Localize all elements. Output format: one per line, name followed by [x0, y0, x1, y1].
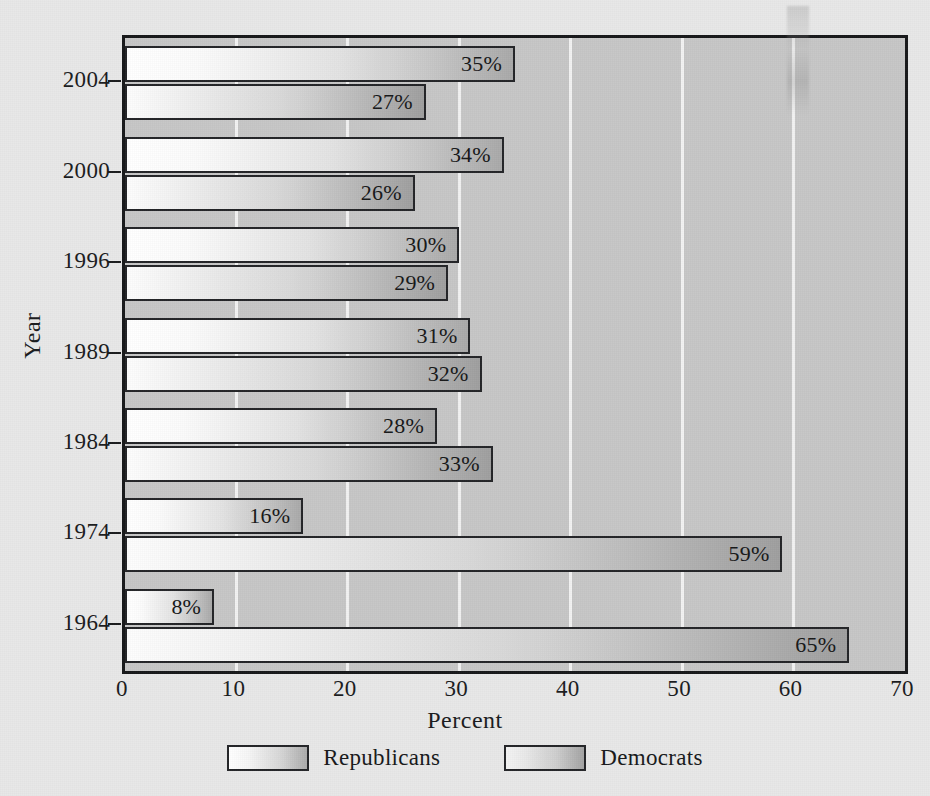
bars-layer: 35%27%34%26%30%29%31%32%28%33%16%59%8%65… [125, 38, 905, 671]
bar-republicans-1974: 16% [125, 498, 303, 534]
legend-item-democrats: Democrats [504, 745, 702, 771]
plot-area: 35%27%34%26%30%29%31%32%28%33%16%59%8%65… [122, 35, 908, 674]
x-tick-label-70: 70 [872, 676, 930, 702]
legend-swatch-democrats [504, 745, 586, 771]
bar-republicans-1989: 31% [125, 318, 470, 354]
bar-value-label: 35% [461, 51, 513, 77]
x-tick-label-60: 60 [761, 676, 821, 702]
y-axis-tick-labels: 2004200019961989198419741964 [0, 35, 110, 668]
y-tick-label-1974: 1974 [18, 519, 110, 545]
bar-democrats-2000: 26% [125, 175, 415, 211]
legend-item-republicans: Republicans [227, 745, 440, 771]
y-tick-label-1964: 1964 [18, 610, 110, 636]
x-tick-label-20: 20 [315, 676, 375, 702]
legend-label-democrats: Democrats [600, 745, 702, 771]
bar-value-label: 26% [361, 180, 413, 206]
x-tick-label-0: 0 [92, 676, 152, 702]
legend-swatch-republicans [227, 745, 309, 771]
x-axis-title: Percent [0, 707, 930, 734]
bar-value-label: 59% [728, 541, 780, 567]
bar-value-label: 28% [383, 413, 435, 439]
legend-label-republicans: Republicans [323, 745, 440, 771]
x-tick-label-40: 40 [538, 676, 598, 702]
y-tick-label-1984: 1984 [18, 429, 110, 455]
bar-value-label: 27% [372, 89, 424, 115]
bar-democrats-1984: 33% [125, 446, 493, 482]
bar-value-label: 33% [439, 451, 491, 477]
bar-value-label: 34% [450, 142, 502, 168]
x-axis-tick-labels: 010203040506070 [122, 676, 902, 710]
bar-chart-figure: Year 2004200019961989198419741964 35%27%… [0, 0, 930, 796]
bar-value-label: 30% [405, 232, 457, 258]
bar-value-label: 16% [249, 503, 301, 529]
bar-value-label: 32% [428, 361, 480, 387]
x-tick-label-10: 10 [203, 676, 263, 702]
y-tick-label-2000: 2000 [18, 158, 110, 184]
bar-republicans-1964: 8% [125, 589, 214, 625]
bar-republicans-2004: 35% [125, 46, 515, 82]
bar-value-label: 8% [171, 594, 212, 620]
bar-democrats-2004: 27% [125, 84, 426, 120]
bar-value-label: 29% [394, 270, 446, 296]
bar-republicans-1984: 28% [125, 408, 437, 444]
bar-democrats-1996: 29% [125, 265, 448, 301]
bar-democrats-1989: 32% [125, 356, 482, 392]
x-tick-label-50: 50 [649, 676, 709, 702]
y-tick-label-2004: 2004 [18, 67, 110, 93]
bar-democrats-1964: 65% [125, 627, 849, 663]
y-tick-label-1989: 1989 [18, 339, 110, 365]
bar-democrats-1974: 59% [125, 536, 782, 572]
bar-value-label: 65% [795, 632, 847, 658]
x-tick-label-30: 30 [426, 676, 486, 702]
bar-republicans-2000: 34% [125, 137, 504, 173]
y-tick-label-1996: 1996 [18, 248, 110, 274]
chart-legend: RepublicansDemocrats [0, 745, 930, 771]
bar-republicans-1996: 30% [125, 227, 459, 263]
bar-value-label: 31% [416, 323, 468, 349]
